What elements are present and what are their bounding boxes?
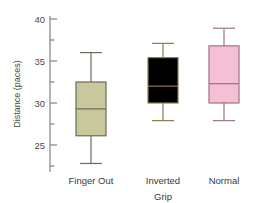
- x-axis-category-label: Grip: [154, 191, 172, 202]
- boxplot-chart: 25303540Distance (paces)Finger OutInvert…: [0, 0, 269, 203]
- x-axis-category-label: Finger Out: [69, 175, 114, 186]
- box-plot-group: [209, 28, 239, 120]
- y-axis-tick-label: 35: [34, 56, 45, 67]
- box-plot-group: [76, 53, 106, 164]
- x-axis-category-label: Normal: [209, 175, 240, 186]
- box-rect: [209, 46, 239, 103]
- y-axis-tick-label: 30: [34, 98, 45, 109]
- chart-canvas: 25303540Distance (paces)Finger OutInvert…: [0, 0, 269, 203]
- box-plot-group: [148, 43, 178, 120]
- box-rect: [148, 58, 178, 103]
- x-axis-category-label: Inverted: [146, 175, 180, 186]
- y-axis-title: Distance (paces): [12, 60, 22, 128]
- y-axis-tick-label: 40: [34, 14, 45, 25]
- y-axis-tick-label: 25: [34, 140, 45, 151]
